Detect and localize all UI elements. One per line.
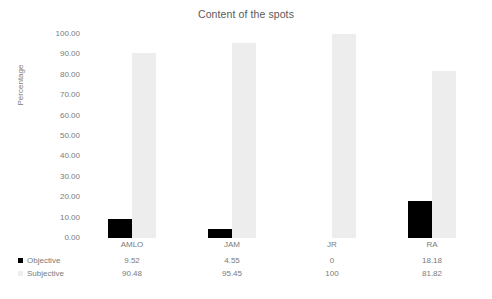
bar-objective-jam[interactable]	[208, 229, 232, 238]
objective-value: 9.52	[87, 256, 177, 265]
legend-item-subjective[interactable]: Subjective	[18, 269, 96, 278]
y-axis-tick-label: 10.00	[60, 214, 80, 222]
category-label: JR	[287, 240, 377, 249]
bar-group	[382, 34, 482, 238]
bar-subjective-ra[interactable]	[432, 71, 456, 238]
gridline	[82, 238, 482, 239]
objective-value: 18.18	[387, 256, 477, 265]
legend-swatch-objective-icon	[18, 258, 23, 263]
category-label: JAM	[187, 240, 277, 249]
bar-objective-amlo[interactable]	[108, 219, 132, 238]
y-axis-tick-label: 80.00	[60, 71, 80, 79]
subjective-value: 100	[287, 269, 377, 278]
category-label-row: AMLOJAMJRRA	[0, 240, 492, 254]
y-axis-tick-labels: 100.0090.0080.0070.0060.0050.0040.0030.0…	[34, 34, 80, 238]
legend-label-objective: Objective	[27, 256, 60, 265]
y-axis-tick-label: 40.00	[60, 152, 80, 160]
legend-swatch-subjective-icon	[18, 271, 23, 276]
y-axis-tick-label: 100.00	[56, 30, 80, 38]
y-axis-tick-label: 50.00	[60, 132, 80, 140]
bar-group	[82, 34, 182, 238]
legend-item-objective[interactable]: Objective	[18, 256, 96, 265]
y-axis-tick-label: 30.00	[60, 173, 80, 181]
subjective-data-row: Subjective 90.4895.4510081.82	[0, 269, 492, 283]
legend-label-subjective: Subjective	[27, 269, 64, 278]
y-axis-tick-label: 70.00	[60, 91, 80, 99]
chart-title: Content of the spots	[0, 8, 492, 20]
bar-group	[182, 34, 282, 238]
bar-subjective-jam[interactable]	[232, 43, 256, 238]
bar-group	[282, 34, 382, 238]
bar-subjective-jr[interactable]	[332, 34, 356, 238]
subjective-value: 90.48	[87, 269, 177, 278]
y-axis-tick-label: 60.00	[60, 112, 80, 120]
objective-data-row: Objective 9.524.55018.18	[0, 256, 492, 270]
plot-area	[82, 34, 482, 238]
y-axis-tick-label: 20.00	[60, 193, 80, 201]
category-label: AMLO	[87, 240, 177, 249]
chart-container: Content of the spots Percentage 100.0090…	[0, 0, 492, 299]
subjective-value: 81.82	[387, 269, 477, 278]
objective-value: 0	[287, 256, 377, 265]
objective-value: 4.55	[187, 256, 277, 265]
bar-objective-ra[interactable]	[408, 201, 432, 238]
legend-data-table: AMLOJAMJRRA Objective 9.524.55018.18 Sub…	[0, 240, 492, 298]
y-axis-title: Percentage	[16, 45, 25, 125]
category-label: RA	[387, 240, 477, 249]
bar-subjective-amlo[interactable]	[132, 53, 156, 238]
subjective-value: 95.45	[187, 269, 277, 278]
y-axis-tick-label: 90.00	[60, 50, 80, 58]
